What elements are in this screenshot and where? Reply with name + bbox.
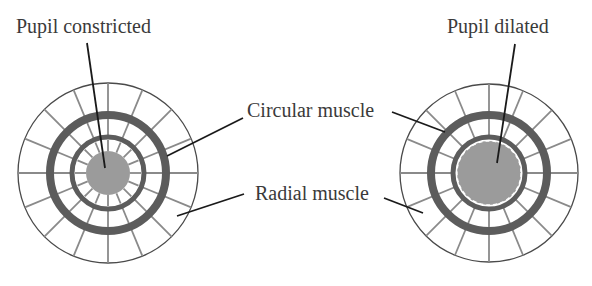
label-radial-muscle: Radial muscle [255, 182, 369, 204]
iris-muscle-diagram: Pupil constricted Pupil dilated Circular… [0, 0, 592, 286]
label-circular-muscle: Circular muscle [247, 99, 374, 121]
eye-dilated [400, 84, 578, 262]
eye-constricted [18, 83, 198, 263]
pupil-constricted [86, 151, 130, 195]
label-pupil-dilated: Pupil dilated [447, 15, 549, 38]
label-pupil-constricted: Pupil constricted [16, 15, 151, 38]
